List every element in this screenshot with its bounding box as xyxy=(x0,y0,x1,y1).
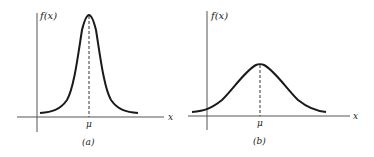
panel-a-mean-label: μ xyxy=(86,119,92,129)
panel-b-y-label: f(x) xyxy=(210,10,228,21)
panel-b-mean-label: μ xyxy=(257,118,263,128)
panel-a-y-label: f(x) xyxy=(39,10,57,21)
panel-a: f(x) x μ (a) xyxy=(17,10,173,147)
panel-b: f(x) x μ (b) xyxy=(188,10,358,146)
panel-a-caption: (a) xyxy=(82,137,95,147)
panel-b-caption: (b) xyxy=(253,136,266,146)
figure: f(x) x μ (a) f(x) x μ (b) xyxy=(0,0,374,157)
panel-a-x-label: x xyxy=(168,112,173,122)
panel-b-density-curve xyxy=(192,64,326,112)
panel-b-x-label: x xyxy=(353,111,358,121)
